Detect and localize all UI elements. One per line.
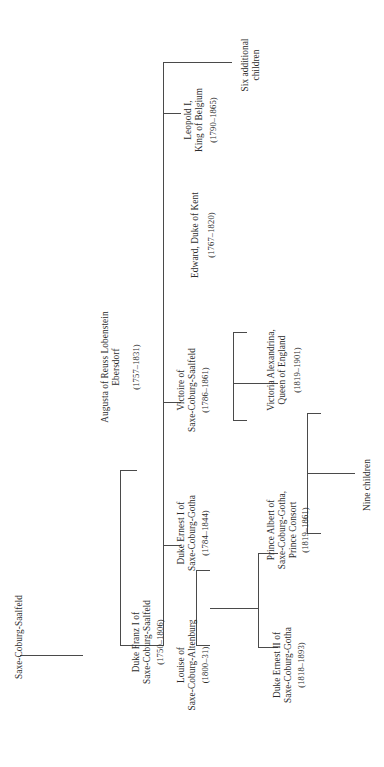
person-louise-dates: (1800–31) <box>200 570 210 760</box>
group-nine-children: Nine children <box>362 390 373 580</box>
person-leopold-name-line1: Leopold I, <box>183 25 194 215</box>
person-franz-dates-text: (1750–1806) <box>155 547 165 737</box>
person-franz-name: Duke Franz I of Saxe-Coburg-Saalfeld <box>131 547 153 737</box>
marriage-stub-victoire <box>233 420 247 421</box>
person-augusta-name-line2: Ebersdorf <box>111 272 122 462</box>
person-franz-name-line2: Saxe-Coburg-Saalfeld <box>142 547 153 737</box>
group-six-additional-children: Six additional children <box>240 0 262 160</box>
family-tree-diagram: Saxe-Coburg-Saalfeld Duke Franz I of Sax… <box>0 0 384 767</box>
group-six-additional-line1: Six additional <box>240 0 251 160</box>
person-louise-dates-text: (1800–31) <box>200 570 210 760</box>
marriage-stub-augusta <box>120 470 137 471</box>
person-louise-name-line1: Louise of <box>176 570 187 760</box>
person-franz-name-line1: Duke Franz I of <box>131 547 142 737</box>
person-louise-name-line2: Saxe-Coburg-Altenburg <box>187 570 198 760</box>
person-louise-name: Louise of Saxe-Coburg-Altenburg <box>176 570 198 760</box>
person-augusta-name-line1: Augusta of Reuss Lobenstein <box>100 272 111 462</box>
root-rule <box>20 655 83 656</box>
person-augusta-dates: (1757–1831) <box>131 272 141 462</box>
marriage-stub-victoria-2 <box>307 413 321 414</box>
group-six-additional-line2: children <box>251 0 262 160</box>
parent-stub-ernest1-louise <box>210 608 258 609</box>
person-leopold-name: Leopold I, King of Belgium <box>183 25 205 215</box>
person-leopold-name-line2: King of Belgium <box>194 25 205 215</box>
person-augusta-dates-text: (1757–1831) <box>131 272 141 462</box>
person-victoria-name-line1: Victoria Alexandrina, <box>266 275 277 465</box>
person-victoria-dates-text: (1819–1901) <box>292 275 302 465</box>
marriage-stub-edward <box>233 332 247 333</box>
person-leopold-dates: (1790–1865) <box>208 25 218 215</box>
marriage-bar-victoire-edward <box>233 332 234 420</box>
group-nine-children-line1: Nine children <box>362 390 373 580</box>
person-victoire-name-line1: Victoire of <box>176 295 187 485</box>
descent-spine-ernest1-louise <box>258 553 259 648</box>
person-victoria-dates: (1819–1901) <box>292 275 302 465</box>
person-augusta-name: Augusta of Reuss Lobenstein Ebersdorf <box>100 272 122 462</box>
person-victoria-name: Victoria Alexandrina, Queen of England <box>266 275 288 465</box>
root-title: Saxe-Coburg-Saalfeld <box>14 547 25 727</box>
spine-stub-leopold <box>163 113 181 114</box>
person-leopold-dates-text: (1790–1865) <box>208 25 218 215</box>
person-franz-dates: (1750–1806) <box>155 547 165 737</box>
root-title-text: Saxe-Coburg-Saalfeld <box>14 547 25 727</box>
child-stub-nine-children <box>307 473 355 474</box>
marriage-bar-franz-augusta <box>120 470 121 646</box>
person-victoria-name-line2: Queen of England <box>277 275 288 465</box>
